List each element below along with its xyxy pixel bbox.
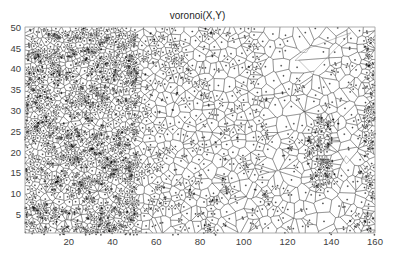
voronoi-plot-area: [0, 0, 395, 257]
y-tick-label: 45: [1, 43, 21, 54]
y-tick-label: 10: [1, 188, 21, 199]
x-tick-label: 140: [316, 236, 346, 247]
y-tick-label: 30: [1, 105, 21, 116]
y-tick-label: 40: [1, 63, 21, 74]
x-tick-label: 120: [273, 236, 303, 247]
y-tick-label: 25: [1, 126, 21, 137]
x-tick-label: 60: [141, 236, 171, 247]
y-tick-label: 50: [1, 22, 21, 33]
y-tick-label: 15: [1, 167, 21, 178]
y-tick-label: 35: [1, 84, 21, 95]
y-tick-label: 20: [1, 147, 21, 158]
voronoi-cell-edges: [25, 27, 375, 233]
x-tick-label: 100: [229, 236, 259, 247]
x-tick-label: 40: [98, 236, 128, 247]
x-tick-label: 80: [185, 236, 215, 247]
x-tick-label: 160: [360, 236, 390, 247]
y-tick-label: 5: [1, 209, 21, 220]
figure: voronoi(X,Y) 5101520253035404550 2040608…: [0, 0, 395, 257]
x-tick-label: 20: [54, 236, 84, 247]
